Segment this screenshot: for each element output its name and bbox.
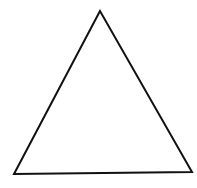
diagram-canvas — [0, 0, 197, 188]
triangle-shape — [14, 11, 192, 174]
